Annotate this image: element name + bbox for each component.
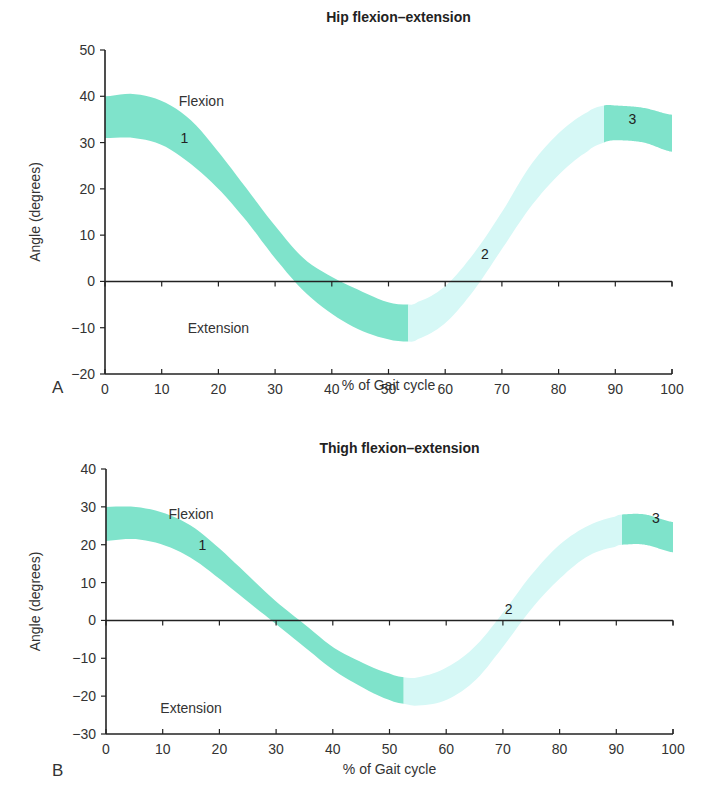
x-tick-label: 80 [551,381,567,397]
y-tick-label: 0 [87,273,95,289]
y-tick-label: −30 [72,726,96,742]
band-segment-3 [622,514,673,553]
x-tick-label: 60 [437,381,453,397]
x-axis-label: % of Gait cycle [342,377,436,393]
x-tick-label: 40 [325,741,341,757]
y-tick-label: 20 [80,537,96,553]
y-tick-label: 30 [79,135,95,151]
x-tick-label: 0 [102,741,110,757]
x-tick-label: 100 [661,741,685,757]
region-label: Extension [188,320,249,336]
axes: −20−10010203040500102030405060708090100 [71,42,684,397]
x-tick-label: 90 [608,381,624,397]
region-label: Flexion [168,506,213,522]
x-axis-label: % of Gait cycle [343,761,437,777]
segment-number-label: 2 [481,246,489,262]
y-axis-label: Angle (degrees) [27,162,43,262]
x-tick-label: 80 [552,741,568,757]
x-tick-label: 100 [660,381,684,397]
y-tick-label: 10 [80,575,96,591]
band-segment-1 [106,506,404,703]
y-tick-label: −10 [72,650,96,666]
panel-label: A [52,378,64,397]
x-tick-label: 90 [609,741,625,757]
thigh-flexion-extension-chart: −30−20−100102030400102030405060708090100… [27,440,685,780]
y-tick-label: −10 [71,320,95,336]
band-segment-2 [404,514,622,705]
x-tick-label: 50 [382,741,398,757]
x-tick-label: 20 [211,381,227,397]
region-label: Flexion [179,93,224,109]
y-tick-label: 10 [79,227,95,243]
chart-title: Thigh flexion–extension [319,440,479,456]
band-segment-1 [105,94,408,342]
y-tick-label: 0 [88,612,96,628]
y-tick-label: 20 [79,181,95,197]
y-tick-label: −20 [71,366,95,382]
x-tick-label: 60 [438,741,454,757]
y-tick-label: 30 [80,499,96,515]
figure: −20−10010203040500102030405060708090100H… [0,0,712,810]
band-segments [105,94,672,342]
y-axis-label: Angle (degrees) [27,552,43,652]
segment-number-label: 1 [180,130,188,146]
hip-flexion-extension-chart: −20−10010203040500102030405060708090100H… [27,9,684,397]
x-tick-label: 20 [212,741,228,757]
x-tick-label: 70 [494,381,510,397]
x-tick-label: 10 [155,741,171,757]
segment-number-label: 2 [505,601,513,617]
x-tick-label: 70 [495,741,511,757]
y-tick-label: 40 [79,88,95,104]
chart-title: Hip flexion–extension [326,9,471,25]
x-tick-label: 30 [268,741,284,757]
segment-number-label: 3 [628,111,636,127]
panel-label: B [52,761,63,780]
region-label: Extension [160,700,221,716]
band-segment-2 [408,106,604,342]
band-segments [106,506,673,705]
band-segment-3 [604,105,672,152]
x-tick-label: 30 [267,381,283,397]
segment-number-label: 1 [198,537,206,553]
x-tick-label: 10 [154,381,170,397]
x-tick-label: 0 [101,381,109,397]
segment-number-label: 3 [652,510,660,526]
x-tick-label: 40 [324,381,340,397]
y-tick-label: 50 [79,42,95,58]
y-tick-label: −20 [72,688,96,704]
y-tick-label: 40 [80,461,96,477]
